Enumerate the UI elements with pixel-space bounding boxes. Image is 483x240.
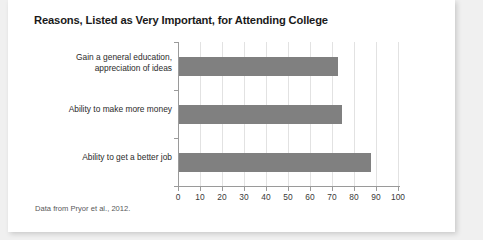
x-axis-tick [332, 186, 333, 191]
plot-area: 0 10 20 30 40 50 60 70 80 90 100 [178, 42, 399, 186]
x-axis-tick [288, 186, 289, 191]
x-axis-tick [354, 186, 355, 191]
x-axis-tick [376, 186, 377, 191]
x-axis-tick [310, 186, 311, 191]
x-axis-tick [244, 186, 245, 191]
x-axis-line [178, 186, 400, 187]
x-axis-tick-label: 100 [383, 192, 413, 202]
x-axis-tick [266, 186, 267, 191]
gridline [398, 42, 399, 186]
x-axis-tick [200, 186, 201, 191]
bar-get-better-job [179, 153, 371, 172]
y-axis-tick [174, 42, 178, 43]
category-label: Ability to make more money [69, 104, 172, 115]
chart-card: Reasons, Listed as Very Important, for A… [8, 0, 455, 232]
x-axis-tick [178, 186, 179, 191]
y-axis-tick [174, 138, 178, 139]
category-label: Gain a general education, appreciation o… [76, 52, 172, 73]
x-axis-tick [398, 186, 399, 191]
plot-frame: 0 10 20 30 40 50 60 70 80 90 100 [178, 42, 399, 186]
bar-make-more-money [179, 105, 342, 124]
category-label: Ability to get a better job [82, 152, 172, 163]
y-axis-tick [174, 90, 178, 91]
x-axis-tick [222, 186, 223, 191]
gridline [376, 42, 377, 186]
source-note: Data from Pryor et al., 2012. [35, 204, 130, 213]
bar-gain-general-education [179, 57, 338, 76]
page-title: Reasons, Listed as Very Important, for A… [34, 14, 328, 26]
category-axis-labels: Gain a general education, appreciation o… [26, 42, 172, 186]
